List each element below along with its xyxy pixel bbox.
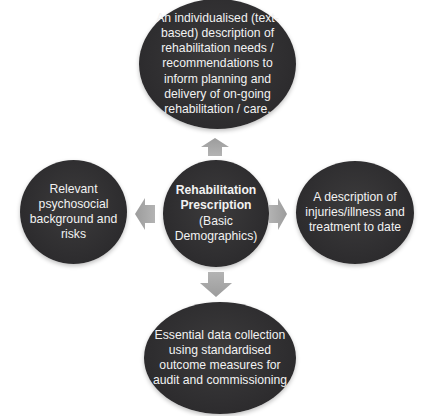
node-injuries-illness: A description of injuries/illness and tr… (296, 161, 414, 264)
arrow-up-icon (200, 137, 230, 157)
node-psychosocial-text: Relevant psychosocial background and ris… (29, 182, 119, 243)
node-rehabilitation-needs-text: An individualised (text-based) descripti… (153, 11, 283, 117)
node-injuries-illness-text: A description of injuries/illness and tr… (299, 190, 411, 236)
node-psychosocial: Relevant psychosocial background and ris… (20, 160, 127, 264)
node-data-collection-text: Essential data collection using standard… (146, 328, 294, 389)
arrow-right-icon (268, 196, 288, 232)
node-rehabilitation-needs: An individualised (text-based) descripti… (139, 0, 296, 129)
center-title-line2: Prescription (166, 198, 266, 213)
center-title-line1: Rehabilitation (166, 183, 266, 198)
arrow-left-icon (134, 196, 156, 232)
node-center-text: Rehabilitation Prescription (Basic Demog… (166, 183, 266, 244)
node-data-collection: Essential data collection using standard… (144, 302, 296, 414)
node-rehabilitation-prescription: Rehabilitation Prescription (Basic Demog… (163, 160, 269, 267)
arrow-down-icon (199, 271, 233, 298)
center-subtitle: (Basic Demographics) (175, 214, 258, 243)
